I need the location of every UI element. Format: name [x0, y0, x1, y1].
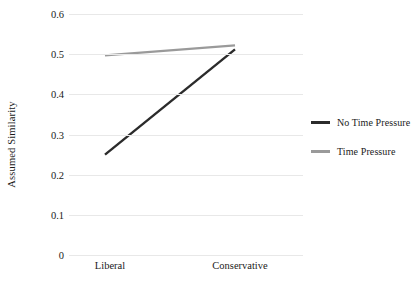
legend-item[interactable]: Time Pressure: [311, 137, 417, 166]
legend-label: No Time Pressure: [337, 117, 410, 128]
y-tick-label: 0.6: [22, 9, 64, 20]
gridline: [69, 175, 303, 176]
gridline: [69, 94, 303, 95]
y-tick-label: 0.1: [22, 209, 64, 220]
chart-legend: No Time PressureTime Pressure: [311, 108, 417, 166]
legend-swatch-icon: [311, 121, 330, 124]
x-tick-label: Conservative: [212, 260, 267, 271]
x-axis-tick-labels: LiberalConservative: [69, 260, 303, 280]
y-axis-tick-labels: 00.10.20.30.40.50.6: [22, 0, 64, 289]
y-tick-label: 0.5: [22, 49, 64, 60]
gridline: [69, 14, 303, 15]
y-tick-label: 0.2: [22, 169, 64, 180]
chart-figure: Assumed Similarity 00.10.20.30.40.50.6 L…: [0, 0, 417, 289]
gridline: [69, 54, 303, 55]
series-line: [105, 49, 235, 154]
plot-area: [69, 14, 303, 255]
y-tick-label: 0.3: [22, 129, 64, 140]
gridline: [69, 135, 303, 136]
y-axis-title: Assumed Similarity: [0, 0, 22, 289]
gridline: [69, 255, 303, 256]
gridline: [69, 215, 303, 216]
y-tick-label: 0: [22, 250, 64, 261]
legend-swatch-icon: [311, 150, 330, 153]
x-tick-label: Liberal: [95, 260, 125, 271]
y-tick-label: 0.4: [22, 89, 64, 100]
legend-label: Time Pressure: [337, 146, 395, 157]
legend-item[interactable]: No Time Pressure: [311, 108, 417, 137]
